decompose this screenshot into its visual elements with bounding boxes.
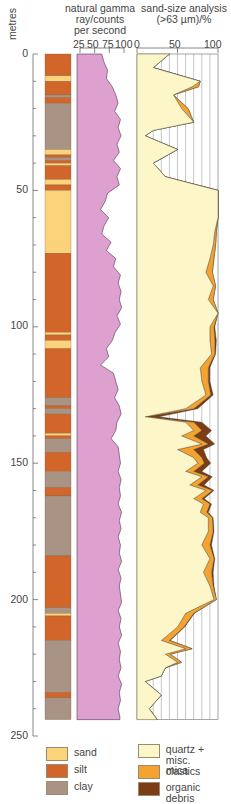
gamma-ray-area xyxy=(77,54,122,720)
legend-swatch-quartz xyxy=(138,744,160,758)
lithology-layer-silt xyxy=(45,692,71,697)
lithology-layer-silt xyxy=(45,556,71,608)
legend-sand: sand xyxy=(46,747,97,761)
lithology-layer-sand xyxy=(45,76,71,81)
lithology-layer-silt xyxy=(45,349,71,398)
lithology-layer-clay xyxy=(45,471,71,487)
lithology-layer-clay xyxy=(45,641,71,693)
legend-label-clay: clay xyxy=(74,781,93,792)
legend-swatch-silt xyxy=(46,764,68,778)
lithology-layer-sand xyxy=(45,332,71,335)
lithology-layer-sand xyxy=(45,190,71,253)
lithology-layer-clay xyxy=(45,496,71,556)
lithology-layer-silt xyxy=(45,253,71,332)
lithology-layer-clay xyxy=(45,95,71,98)
legend-silt: silt xyxy=(46,764,87,778)
lithology-layer-sand xyxy=(45,179,71,184)
lithology-layer-clay xyxy=(45,103,71,149)
legend-swatch-sand xyxy=(46,747,68,761)
lithology-layer-silt xyxy=(45,185,71,190)
lithology-layer-silt xyxy=(45,616,71,641)
lithology-layer-silt xyxy=(45,335,71,340)
legend-swatch-clay xyxy=(46,781,68,795)
legend-label-silt: silt xyxy=(74,764,87,775)
legend-label-organic-debris: organic debris xyxy=(166,782,231,804)
lithology-layer-clay xyxy=(45,608,71,613)
lithology-layer-silt xyxy=(45,81,71,95)
legend-label-quartz-line1: quartz + misc. xyxy=(166,744,231,766)
lithology-layer-sand xyxy=(45,433,71,436)
lithology-layer-silt xyxy=(45,166,71,180)
lithology-layer-clay xyxy=(45,158,71,161)
legend-mica: mica xyxy=(138,765,188,779)
lithology-layer-clay xyxy=(45,698,71,720)
lithology-layer-silt xyxy=(45,436,71,439)
legend-label-sand: sand xyxy=(74,747,97,758)
legend-swatch-mica xyxy=(138,765,160,779)
lithology-layer-sand xyxy=(45,163,71,166)
lithology-layer-silt xyxy=(45,488,71,496)
legend-swatch-organic-debris xyxy=(138,782,160,796)
lithology-layer-clay xyxy=(45,409,71,414)
lithology-layer-clay xyxy=(45,398,71,406)
lithology-layer-sand xyxy=(45,149,71,154)
lithology-layer-sand xyxy=(45,613,71,616)
lithology-layer-silt xyxy=(45,155,71,158)
legend-organic-debris: organic debris xyxy=(138,782,231,804)
lithology-layer-silt xyxy=(45,54,71,76)
lithology-layer-silt xyxy=(45,414,71,433)
legend-clay: clay xyxy=(46,781,93,795)
lithology-layer-silt xyxy=(45,452,71,471)
lithology-layer-clay xyxy=(45,439,71,453)
lithology-layer-silt xyxy=(45,98,71,103)
lithology-layer-silt xyxy=(45,160,71,163)
lithology-layer-silt xyxy=(45,406,71,409)
lithology-layer-sand xyxy=(45,340,71,348)
legend-label-mica: mica xyxy=(166,765,188,776)
